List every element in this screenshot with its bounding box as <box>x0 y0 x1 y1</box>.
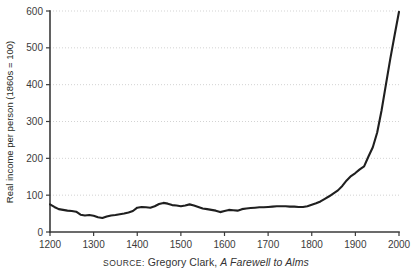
income-series-line <box>50 12 399 218</box>
x-tick-label-1600: 1600 <box>213 239 236 250</box>
y-tick-label-600: 600 <box>26 6 43 17</box>
x-tick-label-1300: 1300 <box>83 239 106 250</box>
gridlines-group <box>50 11 399 195</box>
y-axis-group <box>46 11 50 232</box>
y-tick-label-0: 0 <box>37 227 43 238</box>
income-per-person-line-chart: 0100200300400500600 12001300140015001600… <box>0 0 412 278</box>
y-tick-label-100: 100 <box>26 190 43 201</box>
source-label: SOURCE: <box>103 258 145 268</box>
chart-figure: 0100200300400500600 12001300140015001600… <box>0 0 412 278</box>
x-axis-tick-labels: 120013001400150016001700180019002000 <box>39 239 411 250</box>
y-tick-label-500: 500 <box>26 42 43 53</box>
y-axis-tick-labels: 0100200300400500600 <box>26 6 43 238</box>
source-work-title: A Farewell to Alms <box>220 256 309 268</box>
x-tick-label-1500: 1500 <box>170 239 193 250</box>
y-axis-title: Real income per person (1860s = 100) <box>4 41 15 203</box>
x-tick-label-1200: 1200 <box>39 239 62 250</box>
x-tick-label-2000: 2000 <box>388 239 411 250</box>
x-tick-label-1400: 1400 <box>126 239 149 250</box>
x-tick-label-1700: 1700 <box>257 239 280 250</box>
source-caption: SOURCE: Gregory Clark, A Farewell to Alm… <box>0 256 412 268</box>
y-tick-label-300: 300 <box>26 116 43 127</box>
source-author: Gregory Clark, <box>145 256 221 268</box>
x-axis-group <box>50 232 399 236</box>
y-tick-label-200: 200 <box>26 153 43 164</box>
x-tick-label-1800: 1800 <box>301 239 324 250</box>
y-tick-label-400: 400 <box>26 79 43 90</box>
x-tick-label-1900: 1900 <box>344 239 367 250</box>
